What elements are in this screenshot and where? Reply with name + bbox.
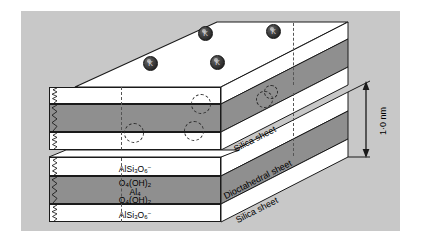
figure-background-panel: K K K K xyxy=(21,11,400,231)
dimension-label: 1·0 nm xyxy=(378,107,388,135)
figure-canvas: K K K K xyxy=(0,0,421,242)
layer-thickness-dimension xyxy=(21,11,400,231)
